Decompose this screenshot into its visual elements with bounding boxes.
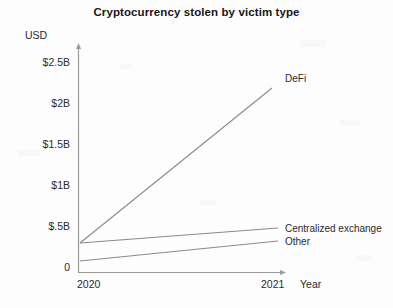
- plot-area: [0, 0, 393, 308]
- series-line-defi: [80, 88, 272, 243]
- y-axis: [76, 43, 81, 273]
- x-axis-arrow: [280, 270, 286, 275]
- chart-figure: Cryptocurrency stolen by victim type USD…: [0, 0, 393, 308]
- y-axis-arrow: [76, 43, 81, 49]
- series-line-other: [80, 241, 278, 261]
- x-axis: [79, 270, 287, 275]
- series-line-centralized-exchange: [80, 228, 278, 243]
